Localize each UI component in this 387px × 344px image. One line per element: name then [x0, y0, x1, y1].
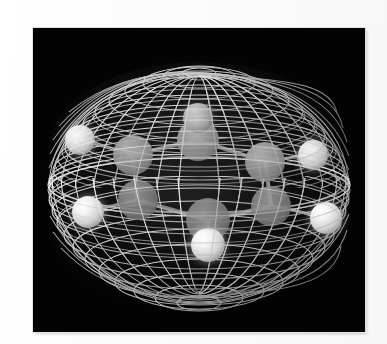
- figure-page: Wireframe isosurface enclosing a benzene…: [0, 0, 387, 344]
- atom-hydrogen-h4: [191, 228, 225, 262]
- atom-carbon-c1: [113, 135, 153, 175]
- molecule-benzene: [33, 28, 365, 332]
- atom-hydrogen-h2: [72, 196, 104, 228]
- bond-c4-h6: [271, 204, 327, 219]
- bond-c6-c1: [131, 155, 140, 200]
- atom-hydrogen-h6: [310, 202, 342, 234]
- bond-c1-h1: [80, 138, 134, 156]
- atom-carbon-c3: [245, 142, 285, 182]
- atom-carbon-c6: [118, 180, 158, 220]
- atom-carbon-c2: [177, 119, 219, 161]
- atom-hydrogen-h1: [65, 125, 95, 155]
- atom-carbon-c5: [186, 198, 230, 242]
- bond-c5-h4: [207, 220, 210, 245]
- bond-c5-c6: [137, 198, 208, 222]
- bond-c4-c5: [208, 204, 272, 222]
- bond-c1-c2: [133, 138, 199, 157]
- bond-c2-h3: [197, 118, 200, 140]
- atom-carbon-c4: [251, 186, 291, 226]
- figure-plate: Wireframe isosurface enclosing a benzene…: [33, 28, 365, 332]
- bond-c6-h2: [88, 198, 139, 213]
- bond-c2-c3: [197, 138, 265, 164]
- atom-hydrogen-h5: [298, 140, 328, 170]
- atom-hydrogen-h3: [183, 103, 213, 133]
- bond-c3-h5: [265, 153, 313, 163]
- bond-c3-c4: [263, 162, 273, 207]
